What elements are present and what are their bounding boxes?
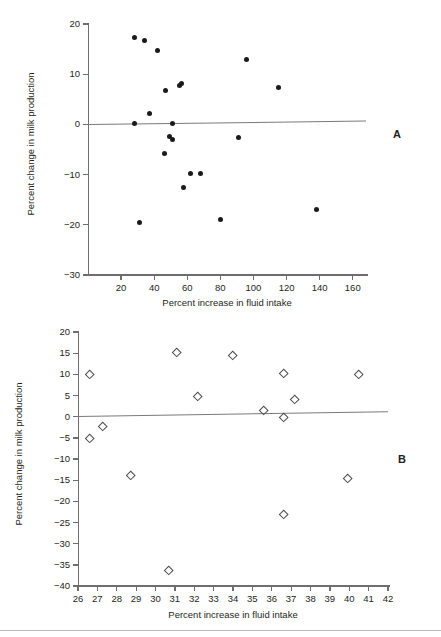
y-tick-label: −35	[32, 560, 70, 570]
x-tick	[271, 585, 272, 591]
x-tick-label: 80	[204, 283, 236, 293]
y-tick-label: 10	[32, 369, 70, 379]
x-tick-label: 120	[271, 283, 303, 293]
x-tick	[387, 585, 388, 591]
panel-b-x-axis-title: Percent increase in fluid intake	[78, 610, 388, 620]
data-point	[181, 185, 186, 190]
data-point	[193, 392, 203, 402]
y-tick-label: −5	[32, 433, 70, 443]
y-tick	[73, 522, 79, 523]
x-tick	[368, 585, 369, 591]
y-tick	[73, 331, 79, 332]
x-tick-label: 42	[372, 594, 404, 604]
data-point	[278, 509, 288, 519]
trend-line	[88, 121, 366, 126]
y-tick-label: 15	[32, 348, 70, 358]
x-tick	[291, 585, 292, 591]
panel-b-plot-area: −40−35−30−25−20−15−10−505101520262728293…	[78, 332, 388, 586]
y-tick	[83, 274, 89, 275]
x-tick	[252, 585, 253, 591]
data-point	[278, 368, 288, 378]
x-tick	[154, 274, 155, 280]
data-point	[244, 57, 249, 62]
data-point	[354, 369, 364, 379]
data-point	[155, 48, 160, 53]
data-point	[218, 217, 223, 222]
y-tick-label: −25	[32, 518, 70, 528]
data-point	[342, 473, 352, 483]
y-tick	[73, 564, 79, 565]
x-tick	[329, 585, 330, 591]
x-tick-label: 20	[105, 283, 137, 293]
data-point	[170, 137, 175, 142]
x-tick	[116, 585, 117, 591]
x-tick	[136, 585, 137, 591]
y-tick	[83, 224, 89, 225]
y-tick-label: 20	[42, 19, 80, 29]
data-point	[84, 433, 94, 443]
data-point	[164, 565, 174, 575]
y-tick-label: −40	[32, 581, 70, 591]
panel-a-plot-area: −30−20−100102020406080100120140160	[88, 24, 366, 275]
data-point	[236, 135, 241, 140]
x-tick	[319, 274, 320, 280]
x-tick	[120, 274, 121, 280]
y-tick	[73, 458, 79, 459]
x-tick	[97, 585, 98, 591]
panel-b-letter: B	[398, 453, 406, 465]
y-axis-line	[88, 24, 89, 275]
x-tick-label: 140	[304, 283, 336, 293]
data-point	[290, 395, 300, 405]
x-tick	[187, 274, 188, 280]
y-tick-label: 0	[32, 412, 70, 422]
y-tick	[83, 174, 89, 175]
data-point	[162, 151, 167, 156]
x-axis-line	[78, 585, 390, 586]
x-tick-label: 60	[171, 283, 203, 293]
panel-a-x-axis-title: Percent increase in fluid intake	[88, 298, 366, 308]
data-point	[276, 85, 281, 90]
data-point	[84, 369, 94, 379]
data-point	[163, 88, 168, 93]
panel-a-letter: A	[393, 128, 401, 140]
data-point	[228, 350, 238, 360]
y-tick-label: 5	[32, 391, 70, 401]
y-tick-label: 10	[42, 69, 80, 79]
y-tick-label: −15	[32, 475, 70, 485]
y-tick-label: −10	[32, 454, 70, 464]
data-point	[132, 35, 137, 40]
x-tick-label: 40	[138, 283, 170, 293]
data-point	[132, 121, 137, 126]
x-tick	[194, 585, 195, 591]
x-tick	[213, 585, 214, 591]
x-tick	[286, 274, 287, 280]
x-tick	[310, 585, 311, 591]
y-tick	[73, 437, 79, 438]
y-tick	[73, 353, 79, 354]
y-tick-label: −20	[42, 220, 80, 230]
y-tick	[73, 395, 79, 396]
data-point	[142, 38, 147, 43]
y-tick-label: −30	[42, 270, 80, 280]
panel-b-y-axis-title: Percent change in milk production	[14, 323, 24, 585]
y-tick-label: −30	[32, 539, 70, 549]
x-tick-label: 100	[237, 283, 269, 293]
data-point	[198, 171, 203, 176]
data-point	[170, 121, 175, 126]
x-axis-line	[88, 274, 368, 275]
panel-b: −40−35−30−25−20−15−10−505101520262728293…	[0, 320, 441, 637]
panel-a-y-axis-title: Percent change in milk production	[26, 14, 36, 274]
x-tick-label: 160	[337, 283, 369, 293]
data-point	[179, 81, 184, 86]
x-tick	[253, 274, 254, 280]
data-point	[98, 421, 108, 431]
x-tick	[232, 585, 233, 591]
data-point	[188, 171, 193, 176]
y-tick-label: 0	[42, 119, 80, 129]
data-point	[259, 406, 269, 416]
panel-a: −30−20−100102020406080100120140160 Perce…	[0, 0, 441, 318]
y-tick	[73, 543, 79, 544]
y-tick	[83, 23, 89, 24]
y-tick-label: −10	[42, 170, 80, 180]
trend-line	[78, 412, 388, 418]
